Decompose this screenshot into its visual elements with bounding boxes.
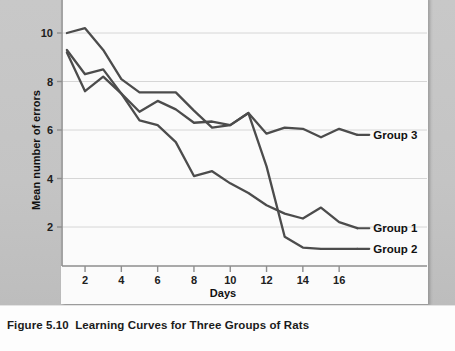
tick-labels: 246810246810121416: [41, 27, 346, 286]
series-line-group-2: [67, 28, 357, 249]
y-tick-label: 10: [41, 27, 53, 39]
axes: [57, 0, 427, 272]
x-tick-label: 6: [155, 274, 161, 286]
x-tick-label: 14: [297, 274, 310, 286]
learning-curves-chart: 246810246810121416 Group 1Group 2Group 3…: [0, 0, 455, 351]
y-tick-label: 4: [47, 173, 54, 185]
figure-number: Figure 5.10: [7, 319, 69, 331]
y-axis-title: Mean number of errors: [30, 90, 42, 210]
series-label-group-3: Group 3: [373, 129, 417, 141]
x-tick-label: 12: [260, 274, 272, 286]
figure-title: Learning Curves for Three Groups of Rats: [75, 319, 309, 331]
data-series: [67, 28, 357, 249]
x-tick-label: 4: [118, 274, 125, 286]
figure-container: 246810246810121416 Group 1Group 2Group 3…: [0, 0, 455, 351]
y-tick-label: 8: [47, 76, 53, 88]
series-label-group-1: Group 1: [373, 222, 418, 234]
y-tick-label: 2: [47, 221, 53, 233]
x-tick-label: 10: [224, 274, 236, 286]
x-axis-title: Days: [210, 287, 236, 299]
series-labels: Group 1Group 2Group 3: [357, 129, 418, 255]
x-tick-label: 8: [191, 274, 197, 286]
gridlines: [62, 33, 427, 227]
caption-divider: [0, 305, 455, 306]
series-label-group-2: Group 2: [373, 243, 417, 255]
caption-band: Figure 5.10 Learning Curves for Three Gr…: [0, 305, 455, 351]
figure-caption: Figure 5.10 Learning Curves for Three Gr…: [7, 319, 309, 331]
x-tick-label: 16: [333, 274, 345, 286]
y-tick-label: 6: [47, 124, 53, 136]
x-tick-label: 2: [82, 274, 88, 286]
